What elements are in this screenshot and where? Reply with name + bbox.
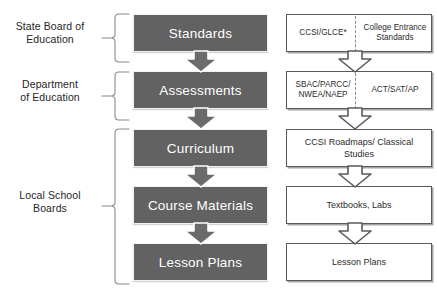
- track-divider-assessments: [355, 73, 356, 109]
- governance-label-line: Local School: [4, 189, 96, 202]
- track-divider-standards: [355, 16, 356, 52]
- example-arrow-curriculum-to-course-materials: [337, 165, 373, 188]
- process-box-label: Assessments: [159, 83, 241, 98]
- governance-label-state-board: State Board of Education: [4, 20, 96, 46]
- example-box-assessments[interactable]: SBAC/PARCC/ NWEA/NAEP ACT/SAT/AP: [286, 71, 432, 109]
- example-arrow-assessments-to-curriculum: [337, 107, 373, 130]
- example-box-left-label: SBAC/PARCC/ NWEA/NAEP: [287, 80, 359, 101]
- example-box-lesson-plans[interactable]: Lesson Plans: [286, 243, 432, 281]
- diagram-canvas: State Board of Education Department of E…: [0, 0, 437, 296]
- example-box-content: Textbooks, Labs: [287, 187, 431, 223]
- governance-label-line: Department: [4, 78, 96, 91]
- process-box-assessments[interactable]: Assessments: [133, 71, 268, 109]
- flow-arrow-course-materials-to-lesson-plans: [183, 222, 219, 245]
- governance-label-dept-education: Department of Education: [4, 78, 96, 104]
- example-box-curriculum[interactable]: CCSI Roadmaps/ Classical Studies: [286, 129, 432, 167]
- governance-label-line: State Board of: [4, 20, 96, 33]
- flow-arrow-standards-to-assessments: [183, 50, 219, 73]
- example-box-left-label: CCSI/GLCE*: [287, 28, 359, 39]
- example-box-standards[interactable]: CCSI/GLCE* College Entrance Standards: [286, 14, 432, 52]
- flow-arrow-curriculum-to-course-materials: [183, 165, 219, 188]
- flow-arrow-assessments-to-curriculum: [183, 107, 219, 130]
- example-box-course-materials[interactable]: Textbooks, Labs: [286, 186, 432, 224]
- brace-local-school-boards: [99, 128, 131, 285]
- process-box-standards[interactable]: Standards: [133, 14, 268, 52]
- governance-label-line: Education: [4, 33, 96, 46]
- example-box-label: Lesson Plans: [287, 256, 431, 268]
- example-box-content: SBAC/PARCC/ NWEA/NAEP ACT/SAT/AP: [287, 72, 431, 108]
- example-box-right-label: ACT/SAT/AP: [359, 85, 431, 96]
- governance-label-line: of Education: [4, 91, 96, 104]
- example-box-content: CCSI Roadmaps/ Classical Studies: [287, 130, 431, 166]
- process-box-lesson-plans[interactable]: Lesson Plans: [133, 243, 268, 281]
- brace-dept-education: [99, 71, 131, 123]
- brace-state-board: [99, 13, 131, 65]
- governance-label-local-school-boards: Local School Boards: [4, 189, 96, 215]
- example-box-right-label: College Entrance Standards: [359, 23, 431, 44]
- process-box-label: Course Materials: [148, 198, 253, 213]
- process-box-course-materials[interactable]: Course Materials: [133, 186, 268, 224]
- governance-label-line: Boards: [4, 202, 96, 215]
- process-box-label: Curriculum: [167, 141, 234, 156]
- example-arrow-standards-to-assessments: [337, 50, 373, 73]
- example-box-content: CCSI/GLCE* College Entrance Standards: [287, 15, 431, 51]
- example-arrow-course-materials-to-lesson-plans: [337, 222, 373, 245]
- process-box-label: Lesson Plans: [159, 255, 242, 270]
- example-box-content: Lesson Plans: [287, 244, 431, 280]
- example-box-label: CCSI Roadmaps/ Classical Studies: [287, 136, 431, 160]
- example-box-label: Textbooks, Labs: [287, 199, 431, 211]
- process-box-label: Standards: [169, 26, 232, 41]
- process-box-curriculum[interactable]: Curriculum: [133, 129, 268, 167]
